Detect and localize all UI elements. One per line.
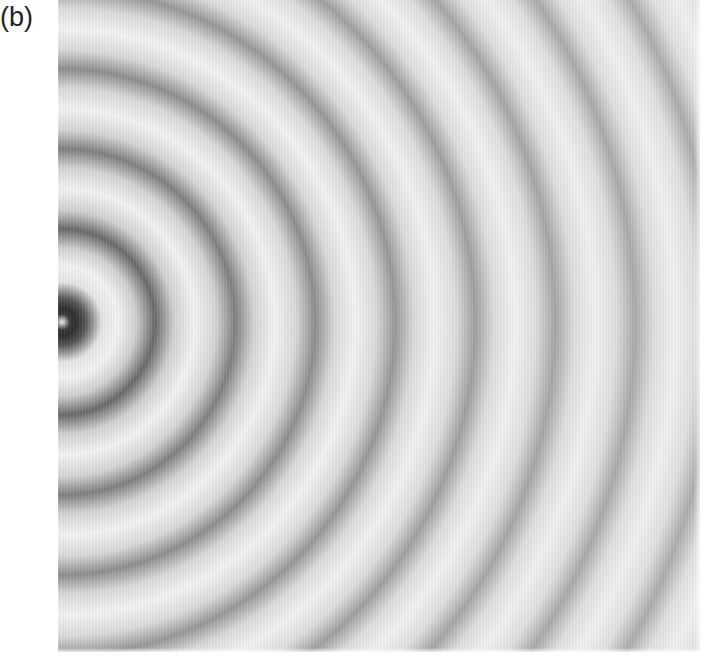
panel-label: (b) (0, 2, 33, 33)
concentric-rings-pattern (58, 0, 700, 652)
bottom-edge-fade (58, 648, 700, 652)
right-edge-fade (694, 0, 700, 652)
interference-ring-image (58, 0, 700, 652)
